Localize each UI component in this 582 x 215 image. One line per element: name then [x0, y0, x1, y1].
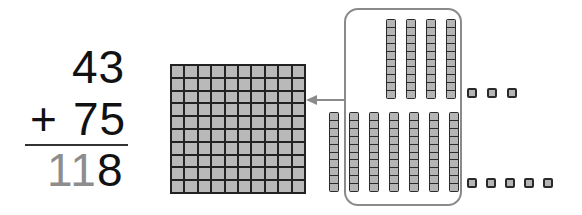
rod-cell [370, 184, 378, 191]
rod-cell [390, 129, 398, 136]
unit-cell [172, 117, 183, 128]
rod-cell [390, 145, 398, 152]
rod-cell [370, 145, 378, 152]
rod-cell [427, 36, 435, 43]
unit-cell [266, 104, 277, 115]
unit-cell [172, 130, 183, 141]
unit-cell [252, 143, 263, 154]
unit-cell [266, 181, 277, 192]
unit-cell [172, 104, 183, 115]
rod-cell [447, 91, 455, 98]
unit-cell [199, 104, 210, 115]
ones-cube [543, 178, 553, 188]
rod-cell [430, 113, 438, 120]
rod-cell [330, 129, 338, 136]
unit-cell [252, 66, 263, 77]
unit-cell [226, 66, 237, 77]
unit-cell [293, 104, 304, 115]
rod-cell [370, 176, 378, 183]
rod-cell [350, 160, 358, 167]
rod-cell [430, 160, 438, 167]
rod-cell [430, 168, 438, 175]
rod-cell [450, 184, 458, 191]
rod-cell [350, 184, 358, 191]
tens-rod [406, 19, 416, 99]
rod-cell [407, 20, 415, 27]
unit-cell [239, 168, 250, 179]
addend-75: 75 [73, 96, 126, 142]
unit-cell [239, 66, 250, 77]
rod-cell [430, 176, 438, 183]
unit-cell [185, 66, 196, 77]
unit-cell [172, 79, 183, 90]
unit-cell [239, 130, 250, 141]
left-arrow-icon [306, 95, 317, 105]
rod-cell [350, 168, 358, 175]
unit-cell [212, 117, 223, 128]
unit-cell [212, 156, 223, 167]
unit-cell [212, 66, 223, 77]
rod-cell [447, 60, 455, 67]
rod-cell [447, 28, 455, 35]
rod-cell [450, 113, 458, 120]
rod-cell [407, 44, 415, 51]
unit-cell [212, 79, 223, 90]
rod-cell [390, 160, 398, 167]
unit-cell [239, 143, 250, 154]
plus-sign: + [30, 96, 58, 142]
unit-cell [185, 130, 196, 141]
unit-cell [279, 143, 290, 154]
unit-cell [239, 104, 250, 115]
rod-cell [447, 67, 455, 74]
unit-cell [172, 168, 183, 179]
unit-cell [293, 156, 304, 167]
rod-cell [410, 137, 418, 144]
rod-cell [410, 168, 418, 175]
unit-cell [226, 181, 237, 192]
rod-cell [330, 160, 338, 167]
rod-cell [407, 60, 415, 67]
unit-cell [226, 79, 237, 90]
unit-cell [252, 130, 263, 141]
rod-cell [430, 153, 438, 160]
rod-cell [390, 121, 398, 128]
rod-cell [427, 20, 435, 27]
unit-cell [185, 181, 196, 192]
tens-rod [446, 19, 456, 99]
rod-cell [350, 153, 358, 160]
tens-rod [429, 112, 439, 192]
unit-cell [185, 92, 196, 103]
rod-cell [450, 129, 458, 136]
rod-cell [430, 121, 438, 128]
rod-cell [410, 145, 418, 152]
unit-cell [185, 143, 196, 154]
rod-cell [407, 36, 415, 43]
unit-cell [185, 168, 196, 179]
rod-cell [330, 168, 338, 175]
rod-cell [390, 113, 398, 120]
unit-cell [172, 92, 183, 103]
rod-cell [447, 83, 455, 90]
rod-cell [447, 75, 455, 82]
rod-cell [450, 153, 458, 160]
regroup-arrow-shaft [316, 99, 344, 101]
rod-cell [450, 145, 458, 152]
unit-cell [172, 66, 183, 77]
rod-cell [407, 83, 415, 90]
unit-cell [279, 181, 290, 192]
rod-cell [390, 168, 398, 175]
unit-cell [266, 79, 277, 90]
unit-cell [239, 79, 250, 90]
rod-cell [387, 44, 395, 51]
rod-cell [427, 44, 435, 51]
unit-cell [293, 117, 304, 128]
rod-cell [330, 121, 338, 128]
rod-cell [390, 137, 398, 144]
unit-cell [185, 79, 196, 90]
unit-cell [199, 181, 210, 192]
rod-cell [407, 75, 415, 82]
unit-cell [226, 117, 237, 128]
rod-cell [407, 67, 415, 74]
rod-cell [447, 44, 455, 51]
rod-cell [350, 137, 358, 144]
